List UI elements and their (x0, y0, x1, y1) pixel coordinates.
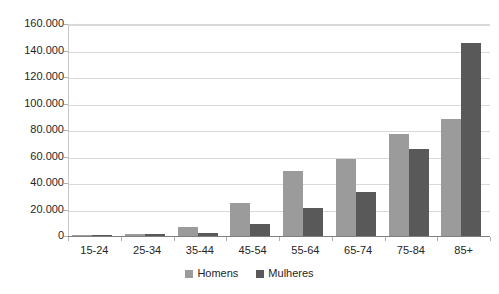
bar-mulheres[interactable] (303, 208, 323, 236)
y-axis-tick-label: 120.000 (0, 71, 64, 82)
x-axis-tick-label: 75-84 (385, 244, 438, 256)
bar-homens[interactable] (283, 171, 303, 236)
legend-swatch-icon (185, 270, 193, 278)
x-axis-tick-mark (437, 237, 438, 241)
bar-homens[interactable] (178, 227, 198, 236)
y-axis-tick-label: 100.000 (0, 98, 64, 109)
legend-entry[interactable]: Mulheres (256, 268, 313, 279)
bar-mulheres[interactable] (356, 192, 376, 236)
x-axis-tick-label: 55-64 (279, 244, 332, 256)
x-axis-tick-label: 25-34 (121, 244, 174, 256)
bar-group (332, 24, 385, 236)
bar-homens[interactable] (389, 134, 409, 236)
bar-group (437, 24, 490, 236)
bar-group (174, 24, 227, 236)
x-axis-tick-mark (385, 237, 386, 241)
y-axis-tick-label: 40.000 (0, 177, 64, 188)
y-axis-tick-label: 80.000 (0, 124, 64, 135)
bar-mulheres[interactable] (92, 235, 112, 236)
y-axis: 160.000140.000120.000100.00080.00060.000… (0, 0, 64, 294)
bar-homens[interactable] (72, 235, 92, 236)
legend-label: Homens (197, 268, 238, 279)
y-axis-tick-label: 160.000 (0, 18, 64, 29)
bar-mulheres[interactable] (461, 43, 481, 236)
bar-mulheres[interactable] (145, 234, 165, 236)
x-axis: 15-2425-3435-4445-5455-6465-7475-8485+ (68, 237, 490, 261)
y-axis-tick-label: 0 (0, 230, 64, 241)
bar-mulheres[interactable] (409, 149, 429, 236)
bar-mulheres[interactable] (250, 224, 270, 236)
legend-entry[interactable]: Homens (185, 268, 238, 279)
x-axis-tick-label: 35-44 (174, 244, 227, 256)
chart-legend: HomensMulheres (0, 268, 499, 279)
legend-swatch-icon (256, 270, 264, 278)
bar-homens[interactable] (125, 234, 145, 236)
legend-label: Mulheres (268, 268, 313, 279)
bar-homens[interactable] (336, 159, 356, 236)
y-axis-tick-label: 140.000 (0, 45, 64, 56)
x-axis-tick-mark (174, 237, 175, 241)
x-axis-tick-mark (490, 237, 491, 241)
bar-mulheres[interactable] (198, 233, 218, 236)
x-axis-tick-mark (332, 237, 333, 241)
bar-group (385, 24, 438, 236)
x-axis-tick-label: 85+ (437, 244, 490, 256)
bar-group (68, 24, 121, 236)
x-axis-tick-mark (68, 237, 69, 241)
x-axis-tick-mark (121, 237, 122, 241)
bar-group (226, 24, 279, 236)
bar-homens[interactable] (230, 203, 250, 236)
x-axis-tick-label: 15-24 (68, 244, 121, 256)
y-axis-tick-label: 20.000 (0, 204, 64, 215)
x-axis-tick-mark (226, 237, 227, 241)
x-axis-tick-label: 65-74 (332, 244, 385, 256)
bar-group (279, 24, 332, 236)
bar-homens[interactable] (441, 119, 461, 236)
bar-group (121, 24, 174, 236)
x-axis-tick-label: 45-54 (226, 244, 279, 256)
bar-chart: 160.000140.000120.000100.00080.00060.000… (0, 0, 499, 294)
y-axis-tick-label: 60.000 (0, 151, 64, 162)
x-axis-tick-mark (279, 237, 280, 241)
bars-layer (68, 24, 490, 236)
